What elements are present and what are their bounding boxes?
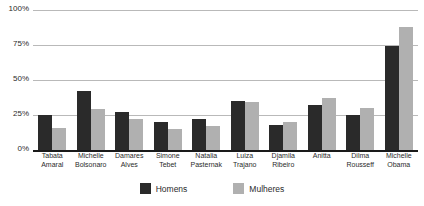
bar-group [303,10,342,150]
bar-group [149,10,188,150]
legend-label: Mulheres [249,184,284,194]
bar-homens[interactable] [308,105,322,150]
bar-mulheres[interactable] [245,102,259,150]
bar-mulheres[interactable] [399,27,413,150]
bar-group [380,10,419,150]
bar-group [226,10,265,150]
y-tick-label-0: 0% [17,144,29,153]
x-axis-label: Natalia Pasternak [187,152,226,169]
x-axis-label: Tabata Amaral [33,152,72,169]
legend-item-homens[interactable]: Homens [140,183,188,194]
bar-group [341,10,380,150]
bar-mulheres[interactable] [283,122,297,150]
bar-mulheres[interactable] [168,129,182,150]
bar-group [72,10,111,150]
y-tick-label-100: 100% [9,4,29,13]
bar-homens[interactable] [154,122,168,150]
bar-homens[interactable] [269,125,283,150]
x-axis-label: Simone Tebet [149,152,188,169]
bar-mulheres[interactable] [360,108,374,150]
bar-homens[interactable] [192,119,206,150]
legend-label: Homens [156,184,188,194]
bar-group [187,10,226,150]
legend-item-mulheres[interactable]: Mulheres [233,183,284,194]
legend-swatch-icon [233,183,244,194]
bar-group [110,10,149,150]
bar-mulheres[interactable] [91,109,105,150]
bar-homens[interactable] [115,112,129,150]
plot-area: 100% 75% 50% 25% [33,10,418,150]
grouped-bar-chart: 100% 75% 50% 25% [0,0,424,206]
x-axis-label: Dilma Rousseff [341,152,380,169]
bar-mulheres[interactable] [129,119,143,150]
x-axis-labels: Tabata Amaral Michelle Bolsonaro Damares… [33,152,418,169]
bar-homens[interactable] [38,115,52,150]
x-axis-label: Damares Alves [110,152,149,169]
bar-homens[interactable] [231,101,245,150]
bars-layer [33,10,418,150]
y-tick-label-50: 50% [13,74,29,83]
y-tick-label-75: 75% [13,39,29,48]
bar-homens[interactable] [346,115,360,150]
legend-swatch-icon [140,183,151,194]
x-axis-label: Michelle Obama [380,152,419,169]
x-axis-label: Luiza Trajano [226,152,265,169]
chart-legend: Homens Mulheres [0,183,424,194]
bar-homens[interactable] [385,46,399,150]
x-axis-label: Djamila Ribeiro [264,152,303,169]
bar-group [33,10,72,150]
x-axis-label: Michelle Bolsonaro [72,152,111,169]
bar-homens[interactable] [77,91,91,150]
bar-mulheres[interactable] [322,98,336,150]
bar-mulheres[interactable] [52,128,66,150]
bar-mulheres[interactable] [206,126,220,150]
x-axis-label: Anitta [303,152,342,169]
bar-group [264,10,303,150]
y-tick-label-25: 25% [13,109,29,118]
